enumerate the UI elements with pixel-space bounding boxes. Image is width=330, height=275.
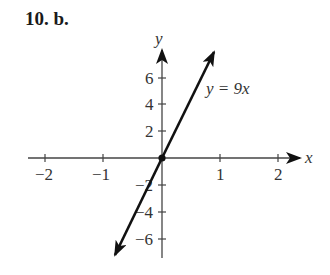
x-tick-label: −1 [92, 165, 110, 184]
y-axis-label: y [153, 29, 163, 48]
x-tick-label: 1 [216, 165, 225, 184]
y-tick-label: 2 [145, 122, 154, 141]
equation-label: y = 9x [204, 79, 250, 98]
x-tick-label: −2 [35, 165, 53, 184]
y-tick-label: 6 [145, 69, 154, 88]
x-tick-label: 2 [274, 165, 283, 184]
series-line-y-9x [115, 52, 214, 255]
x-axis-label: x [304, 148, 313, 167]
graph: x −2 −1 1 2 y 6 4 2 −2 −4 −6 y = 9x [0, 0, 330, 275]
y-tick-label: −6 [135, 230, 153, 249]
y-tick-label: 4 [145, 95, 154, 114]
origin-point [158, 154, 165, 161]
